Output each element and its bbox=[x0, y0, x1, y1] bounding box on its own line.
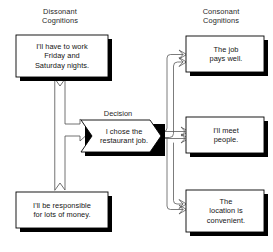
node-responsible-money: I'll be responsible for lots of money. bbox=[16, 192, 108, 228]
node-pays-well: The job pays well. bbox=[190, 36, 262, 72]
column-header-dissonant: Dissonant Cognitions bbox=[17, 7, 103, 25]
node-meet-people: I'll meet people. bbox=[190, 117, 262, 153]
node-decision: I chose the restaurant job. bbox=[92, 120, 156, 152]
node-location-convenient: The location is convenient. bbox=[190, 190, 262, 232]
node-work-nights: I'll have to work Friday and Saturday ni… bbox=[16, 35, 108, 77]
cognitive-dissonance-diagram: Dissonant Cognitions Consonant Cognition… bbox=[0, 0, 273, 252]
connector-decision-to-location-convenient-inner bbox=[174, 143, 187, 209]
decision-caption: Decision bbox=[76, 109, 160, 118]
column-header-consonant: Consonant Cognitions bbox=[176, 7, 266, 25]
